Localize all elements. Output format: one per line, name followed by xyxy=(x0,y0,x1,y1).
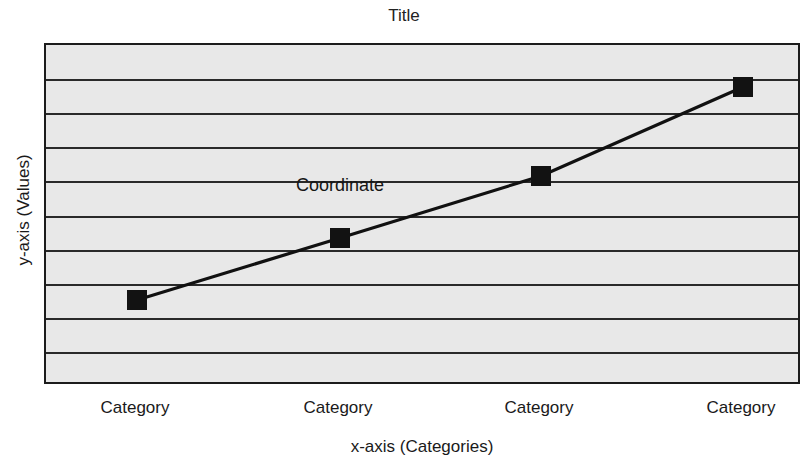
x-tick-label: Category xyxy=(304,396,373,420)
x-tick-label: Category xyxy=(505,396,574,420)
data-point-marker xyxy=(531,166,551,186)
series-line-coordinate xyxy=(137,87,743,300)
chart-container: Title y-axis (Values) Coordinate Categor… xyxy=(0,0,808,468)
x-tick-label: Category xyxy=(707,396,776,420)
x-axis-tick-labels: CategoryCategoryCategoryCategory xyxy=(44,396,800,420)
data-point-marker xyxy=(330,228,350,248)
x-tick-label: Category xyxy=(101,396,170,420)
plot-area: Coordinate xyxy=(44,43,800,384)
data-point-marker xyxy=(733,77,753,97)
x-axis-title: x-axis (Categories) xyxy=(44,436,800,458)
chart-title: Title xyxy=(0,4,808,28)
series-label-coordinate: Coordinate xyxy=(296,175,384,195)
series-line-svg xyxy=(46,45,802,386)
data-point-marker xyxy=(127,290,147,310)
plot-inner: Coordinate xyxy=(46,45,798,382)
y-axis-title: y-axis (Values) xyxy=(14,110,34,310)
